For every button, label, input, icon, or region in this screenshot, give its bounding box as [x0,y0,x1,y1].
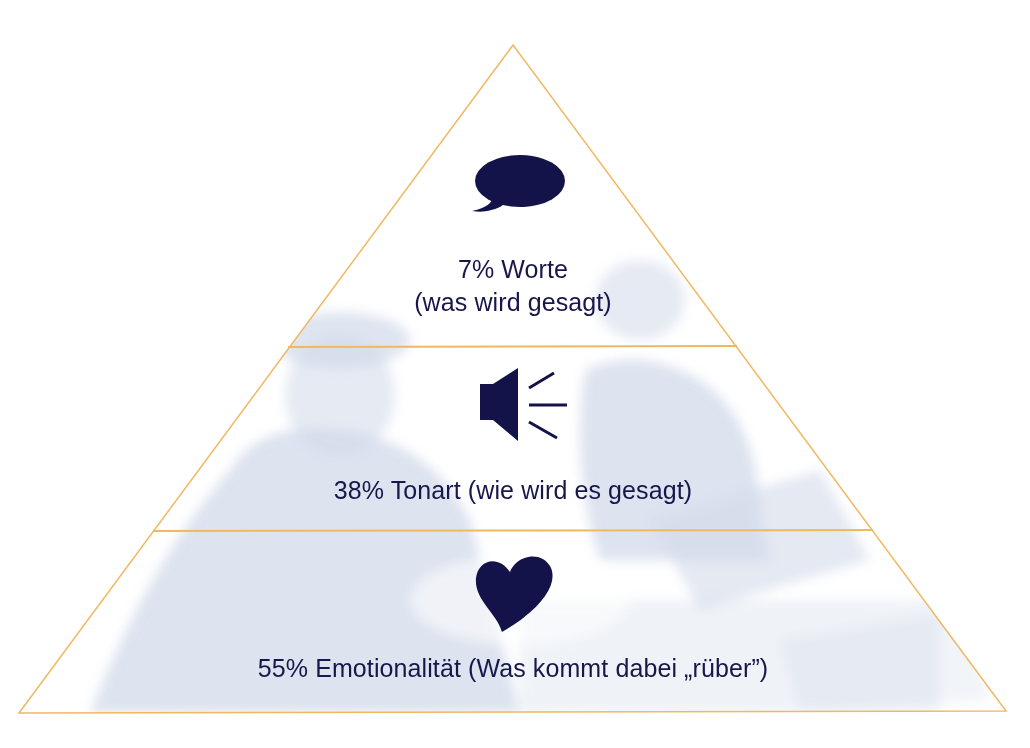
level-top-subtitle: (was wird gesagt) [363,286,663,319]
level-bottom-title: 55% Emotionalität (Was kommt dabei „rübe… [163,652,863,685]
level-middle-title: 38% Tonart (wie wird es gesagt) [263,474,763,507]
speaker-icon [480,368,567,441]
level-bottom-label: 55% Emotionalität (Was kommt dabei „rübe… [163,652,863,685]
divider-top [288,346,737,347]
pyramid-graphic [0,0,1030,748]
speech-bubble-icon [472,155,565,212]
level-middle-label: 38% Tonart (wie wird es gesagt) [263,474,763,507]
communication-pyramid: 7% Worte (was wird gesagt) 38% Tonart (w… [0,0,1030,748]
divider-bottom [153,530,873,531]
level-top-title: 7% Worte [363,253,663,286]
level-top-label: 7% Worte (was wird gesagt) [363,253,663,319]
